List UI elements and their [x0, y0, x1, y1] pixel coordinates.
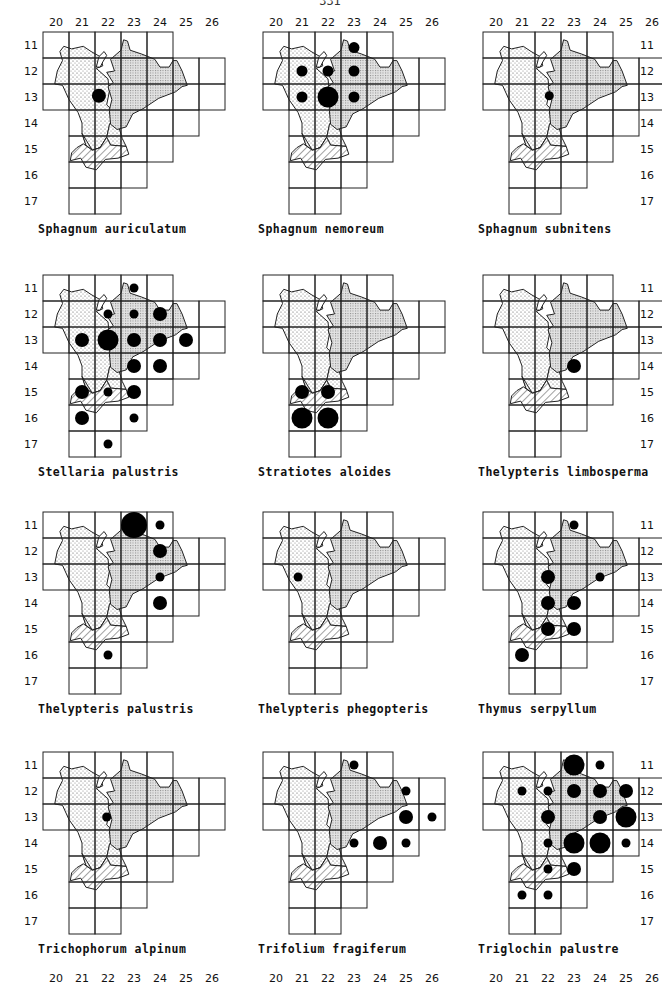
lake-outline [316, 295, 326, 311]
row-label: 12 [24, 545, 38, 558]
row-label: 12 [640, 308, 654, 321]
occurrence-dot [545, 91, 554, 100]
column-label: 25 [179, 16, 193, 29]
column-label: 24 [373, 972, 387, 985]
distribution-map: 2021222324252611121314151617Sphagnum aur… [0, 0, 222, 240]
occurrence-dot [156, 521, 165, 530]
occurrence-dot [92, 89, 106, 103]
grid-cell [587, 136, 613, 162]
column-label: 24 [153, 972, 167, 985]
column-label: 22 [101, 16, 115, 29]
row-label: 13 [24, 334, 38, 347]
lake-outline [316, 772, 326, 788]
occurrence-dot [544, 865, 553, 874]
column-label: 21 [295, 972, 309, 985]
occurrence-dot [321, 385, 335, 399]
grid-cell [587, 32, 613, 58]
row-label: 15 [24, 623, 38, 636]
grid-cell [69, 431, 95, 457]
column-label: 21 [515, 972, 529, 985]
grid-cell [69, 908, 95, 934]
column-label: 24 [593, 16, 607, 29]
column-label: 22 [321, 972, 335, 985]
species-caption: Triglochin palustre [478, 942, 619, 956]
occurrence-dot [350, 761, 359, 770]
row-label: 12 [640, 785, 654, 798]
grid-cell [535, 188, 561, 214]
row-label: 17 [640, 438, 654, 451]
column-label: 22 [541, 972, 555, 985]
occurrence-dot [616, 807, 637, 828]
row-label: 14 [24, 837, 38, 850]
grid-cell [147, 32, 173, 58]
occurrence-dot [104, 310, 113, 319]
grid-cell [173, 110, 199, 136]
grid-cell [535, 908, 561, 934]
occurrence-dot [153, 359, 167, 373]
occurrence-dot [567, 784, 581, 798]
row-label: 16 [640, 169, 654, 182]
row-label: 11 [640, 759, 654, 772]
occurrence-dot [297, 66, 308, 77]
distribution-map: 11121314151617Stellaria palustris [0, 243, 222, 483]
grid-cell [587, 353, 613, 379]
row-label: 11 [640, 519, 654, 532]
grid-cell [289, 908, 315, 934]
occurrence-dot [294, 573, 303, 582]
row-label: 15 [640, 143, 654, 156]
column-label: 20 [489, 16, 503, 29]
column-label: 21 [295, 16, 309, 29]
row-label: 13 [640, 91, 654, 104]
occurrence-dot [399, 810, 413, 824]
row-label: 17 [24, 915, 38, 928]
grid-cell [535, 668, 561, 694]
occurrence-dot [318, 408, 339, 429]
row-label: 17 [24, 675, 38, 688]
row-label: 12 [24, 65, 38, 78]
column-label: 22 [101, 972, 115, 985]
distribution-map: 20212223242526Sphagnum nemoreum [220, 0, 442, 240]
occurrence-dot [373, 836, 387, 850]
west-region-stippled [275, 526, 335, 630]
lake-outline [536, 532, 546, 548]
occurrence-dot [567, 596, 581, 610]
grid-cell [173, 830, 199, 856]
occurrence-dot [596, 573, 605, 582]
grid-cell [561, 162, 587, 188]
lake-outline [316, 52, 326, 68]
west-region-stippled [55, 46, 115, 150]
row-label: 13 [640, 811, 654, 824]
column-label: 24 [373, 16, 387, 29]
row-label: 15 [640, 863, 654, 876]
row-label: 11 [24, 39, 38, 52]
grid-cell [121, 162, 147, 188]
column-label: 23 [127, 16, 141, 29]
occurrence-dot [593, 810, 607, 824]
distribution-map: Thelypteris phegopteris [220, 480, 442, 720]
species-caption: Thelypteris phegopteris [258, 702, 429, 716]
column-label: 25 [399, 16, 413, 29]
row-label: 15 [24, 863, 38, 876]
row-label: 13 [640, 334, 654, 347]
west-region-stippled [495, 289, 555, 393]
column-label: 23 [347, 16, 361, 29]
column-label: 20 [49, 16, 63, 29]
species-caption: Thelypteris palustris [38, 702, 194, 716]
grid-cell [341, 642, 367, 668]
map-canvas [440, 243, 662, 483]
species-caption: Thymus serpyllum [478, 702, 597, 716]
grid-cell [367, 512, 393, 538]
row-label: 16 [640, 649, 654, 662]
grid-cell [587, 616, 613, 642]
column-label: 20 [49, 972, 63, 985]
row-label: 14 [640, 837, 654, 850]
column-label: 26 [425, 16, 439, 29]
distribution-map: 11121314151617Thelypteris limbosperma [440, 243, 662, 483]
map-canvas [440, 0, 662, 240]
occurrence-dot [593, 784, 607, 798]
grid-cell [509, 431, 535, 457]
grid-cell [613, 590, 639, 616]
row-label: 16 [24, 169, 38, 182]
distribution-map: 11121314151617Thymus serpyllum [440, 480, 662, 720]
grid-cell [367, 353, 393, 379]
